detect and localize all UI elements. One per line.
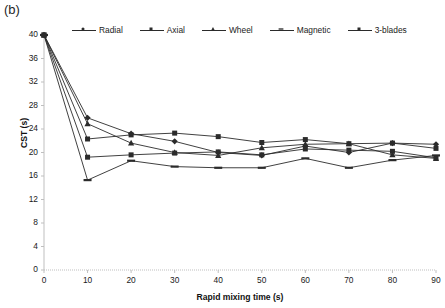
y-tick-label: 40: [12, 29, 38, 39]
line-chart: [0, 0, 445, 308]
x-tick-label: 80: [379, 275, 405, 285]
x-tick-label: 40: [205, 275, 231, 285]
plot-area: CST (s) Rapid mixing time (s) 0481216202…: [0, 0, 445, 308]
x-tick-label: 90: [423, 275, 445, 285]
y-tick-label: 24: [12, 123, 38, 133]
series-axial: [42, 33, 439, 151]
series-3-blades: [42, 33, 439, 161]
series-magnetic: [40, 34, 440, 181]
y-tick-label: 16: [12, 170, 38, 180]
x-tick-label: 20: [118, 275, 144, 285]
x-axis-title: Rapid mixing time (s): [40, 292, 440, 302]
y-tick-label: 32: [12, 76, 38, 86]
x-tick-label: 0: [31, 275, 57, 285]
y-tick-label: 12: [12, 194, 38, 204]
x-tick-label: 30: [162, 275, 188, 285]
x-tick-label: 60: [292, 275, 318, 285]
y-tick-label: 20: [12, 147, 38, 157]
y-tick-label: 0: [12, 264, 38, 274]
x-tick-label: 70: [336, 275, 362, 285]
x-tick-label: 50: [249, 275, 275, 285]
y-tick-label: 4: [12, 241, 38, 251]
y-tick-label: 28: [12, 100, 38, 110]
x-tick-label: 10: [75, 275, 101, 285]
series-wheel: [41, 32, 439, 161]
y-tick-label: 8: [12, 217, 38, 227]
figure-panel: (b) RadialAxialWheelMagnetic3-blades CST…: [0, 0, 445, 308]
y-tick-label: 36: [12, 53, 38, 63]
